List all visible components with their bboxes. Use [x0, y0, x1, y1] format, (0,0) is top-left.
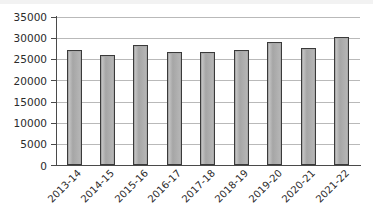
bar-2013-14 [67, 50, 82, 165]
y-axis-tick [51, 38, 57, 39]
bar-2020-21 [301, 48, 316, 165]
bar-chart: 35000 30000 25000 20000 15000 10000 5000… [0, 0, 373, 218]
bar-2014-15 [100, 55, 115, 165]
bar-series [57, 17, 360, 165]
y-axis-label-25000: 25000 [0, 54, 47, 65]
y-axis-tick [51, 17, 57, 18]
y-axis-tick [51, 123, 57, 124]
bar-2019-20 [267, 42, 282, 166]
bar-2017-18 [200, 52, 215, 165]
y-axis-label-30000: 30000 [0, 33, 47, 44]
y-axis-label-5000: 5000 [0, 139, 47, 150]
bar-2016-17 [167, 52, 182, 165]
y-axis-tick [51, 59, 57, 60]
y-axis-tick [51, 165, 57, 166]
y-axis-tick [51, 102, 57, 103]
x-axis-labels: 2013-14 2014-15 2015-16 2016-17 2017-18 … [0, 168, 373, 218]
y-axis-tick [51, 144, 57, 145]
scan-artifact-band [0, 0, 373, 4]
y-axis-label-10000: 10000 [0, 118, 47, 129]
bar-2018-19 [234, 50, 249, 165]
bar-2021-22 [334, 37, 349, 165]
bar-2015-16 [133, 45, 148, 165]
y-axis-label-35000: 35000 [0, 12, 47, 23]
x-axis-line [57, 165, 361, 166]
y-axis-label-20000: 20000 [0, 76, 47, 87]
y-axis-label-15000: 15000 [0, 97, 47, 108]
y-axis-tick [51, 80, 57, 81]
